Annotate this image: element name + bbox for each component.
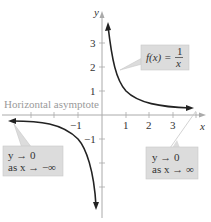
y-tick-label-neg1: −1 [84, 133, 96, 145]
function-label-numerator: 1 [177, 45, 183, 57]
y-tick-label-3: 3 [90, 37, 96, 49]
right-limit-line2: as x → ∞ [152, 163, 194, 175]
y-axis-label: y [93, 6, 99, 18]
reciprocal-function-graph: y x 3 2 1 −1 −1 1 2 3 Horizontal asympto… [0, 0, 211, 222]
x-axis-arrow-icon [199, 113, 206, 118]
curve-top-arrow-icon [105, 22, 111, 31]
x-tick-label-3: 3 [170, 119, 176, 131]
left-limit-line2: as x → −∞ [8, 161, 56, 173]
function-label-lhs: f(x) = [146, 51, 171, 64]
x-tick-label-neg1: −1 [70, 119, 82, 131]
x-axis-label: x [199, 120, 205, 132]
y-tick-label-1: 1 [90, 85, 96, 97]
function-label-denominator: x [175, 57, 181, 69]
x-tick-label-1: 1 [123, 119, 129, 131]
y-tick-label-2: 2 [90, 61, 96, 73]
horizontal-asymptote-label: Horizontal asymptote [4, 98, 99, 110]
left-limit-line1: y → 0 [8, 149, 36, 161]
y-axis-arrow-icon [100, 11, 105, 18]
x-tick-label-2: 2 [146, 119, 152, 131]
right-limit-line1: y → 0 [152, 151, 180, 163]
curve-right-arrow-icon [186, 105, 194, 111]
curve-bottom-arrow-icon [93, 202, 99, 210]
curve-left-arrow-icon [8, 118, 16, 124]
function-label-callout: f(x) = 1 x [120, 45, 189, 70]
left-limit-callout: y → 0 as x → −∞ [3, 124, 63, 176]
